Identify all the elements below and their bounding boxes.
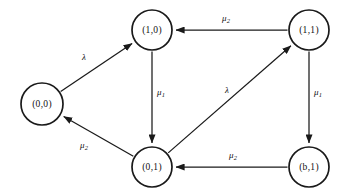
diagram-canvas: λμ2μ1λμ1μ2μ2 (0,0)(1,0)(1,1)(0,1)(b,1) — [0, 0, 342, 194]
node-s01: (0,1) — [132, 147, 172, 187]
node-label-s00: (0,0) — [32, 99, 52, 110]
node-s11: (1,1) — [289, 10, 329, 50]
edges-layer — [61, 30, 309, 167]
node-s00: (0,0) — [21, 83, 63, 125]
node-label-s11: (1,1) — [299, 25, 319, 36]
node-label-s01: (0,1) — [142, 162, 162, 173]
node-sb1: (b,1) — [289, 147, 329, 187]
edge-labels-layer: λμ2μ1λμ1μ2μ2 — [79, 13, 322, 161]
edge-label-e2: μ2 — [221, 13, 231, 24]
node-s10: (1,0) — [132, 10, 172, 50]
node-label-s10: (1,0) — [142, 25, 162, 36]
edge-s01-to-s11 — [168, 46, 291, 153]
edge-s00-to-s10 — [61, 43, 132, 91]
node-label-sb1: (b,1) — [299, 162, 319, 173]
edge-label-e7: μ2 — [79, 140, 89, 151]
edge-label-e4: λ — [224, 85, 229, 95]
nodes-layer: (0,0)(1,0)(1,1)(0,1)(b,1) — [21, 10, 329, 187]
edge-label-e5: μ1 — [313, 87, 322, 98]
edge-label-e3: μ1 — [156, 87, 165, 98]
edge-label-e1: λ — [81, 52, 86, 62]
state-transition-diagram: λμ2μ1λμ1μ2μ2 (0,0)(1,0)(1,1)(0,1)(b,1) — [0, 0, 342, 194]
edge-s01-to-s00 — [64, 116, 134, 156]
edge-label-e6: μ2 — [228, 150, 238, 161]
